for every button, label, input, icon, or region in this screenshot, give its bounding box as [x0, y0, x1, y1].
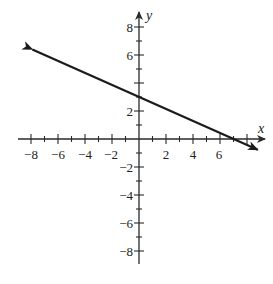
x-tick-label: 6	[216, 147, 223, 162]
coordinate-plane: −8 −6 −4 −2 2 4 6 8 6 2 −2 −4 −6 −8 x y	[0, 0, 273, 284]
x-axis-label: x	[257, 121, 265, 136]
x-tick-label: −6	[51, 147, 65, 162]
y-tick-label: −8	[119, 244, 133, 259]
y-tick-label: −2	[119, 160, 133, 175]
x-tick-label: −8	[24, 147, 38, 162]
y-tick-label: 8	[127, 20, 134, 35]
x-tick-label: 2	[163, 147, 170, 162]
x-tick-label: −2	[104, 147, 118, 162]
y-tick-label: −6	[119, 216, 133, 231]
y-tick-label: 6	[127, 48, 134, 63]
y-tick-label: −4	[119, 188, 133, 203]
plotted-line	[32, 49, 257, 149]
x-tick-label: 4	[190, 147, 197, 162]
y-tick-label: 2	[127, 104, 134, 119]
x-tick-label: −4	[78, 147, 92, 162]
y-axis-label: y	[144, 8, 153, 23]
